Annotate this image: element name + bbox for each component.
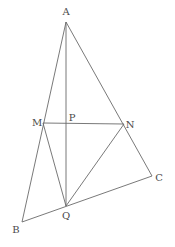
segment-ac	[66, 22, 152, 176]
point-label-p: P	[69, 112, 76, 123]
geometry-diagram: AMPNCQB	[0, 0, 175, 247]
point-label-c: C	[155, 172, 163, 183]
point-label-b: B	[12, 224, 19, 235]
segment-mn	[43, 123, 124, 124]
segment-mq	[43, 123, 66, 206]
point-label-m: M	[32, 117, 42, 128]
labels-group: AMPNCQB	[12, 6, 163, 235]
point-label-n: N	[126, 119, 135, 130]
point-label-a: A	[61, 6, 70, 17]
segment-nq	[66, 124, 124, 206]
segment-bc	[22, 176, 152, 222]
segment-ab	[22, 22, 66, 222]
point-label-q: Q	[62, 210, 70, 221]
